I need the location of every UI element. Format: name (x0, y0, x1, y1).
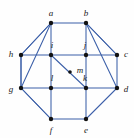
graph-vertex-j (84, 53, 88, 57)
graph-vertex-f (49, 117, 53, 121)
graph-edge-d-e (86, 88, 117, 119)
graph-vertex-a (49, 21, 53, 25)
graph-figure: abcdefghijklm (0, 0, 134, 138)
graph-edge-a-h (21, 23, 51, 55)
graph-vertex-k (84, 86, 88, 90)
graph-vertex-c (115, 53, 119, 57)
graph-vertex-b (84, 21, 88, 25)
graph-vertex-l (49, 86, 53, 90)
graph-vertex-h (19, 53, 23, 57)
graph-vertex-i (49, 53, 53, 57)
graph-vertex-d (115, 86, 119, 90)
graph-edge-g-f (21, 88, 51, 119)
graph-vertex-g (19, 86, 23, 90)
graph-edge-b-c (86, 23, 117, 55)
graph-vertex-e (84, 117, 88, 121)
graph-vertex-m (68, 70, 72, 74)
vertices-layer (19, 21, 119, 121)
graph-canvas (0, 0, 134, 138)
